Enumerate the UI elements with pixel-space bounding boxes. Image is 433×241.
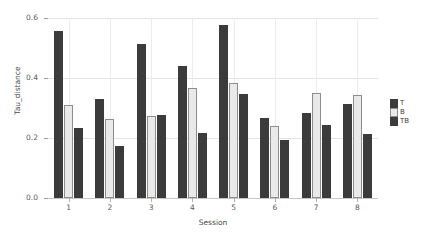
bar-group-session-1: [54, 18, 83, 198]
legend-label-b: B: [400, 108, 405, 117]
bar-b-session-5: [229, 83, 238, 198]
bar-tb-session-6: [280, 140, 289, 198]
bar-t-session-8: [343, 104, 352, 199]
bar-tb-session-4: [198, 133, 207, 198]
x-tick-mark-8: [357, 198, 358, 202]
x-axis-line: [48, 198, 378, 199]
legend-swatch-tb-icon: [390, 117, 398, 126]
bar-tb-session-7: [322, 125, 331, 198]
bar-series-container: [48, 18, 378, 198]
x-tick-label-1: 1: [49, 203, 89, 212]
bar-b-session-4: [188, 88, 197, 198]
bar-b-session-7: [312, 93, 321, 198]
x-tick-mark-2: [110, 198, 111, 202]
x-tick-mark-3: [151, 198, 152, 202]
bar-t-session-3: [137, 44, 146, 198]
x-tick-mark-4: [192, 198, 193, 202]
bar-tb-session-1: [74, 128, 83, 198]
bar-b-session-2: [105, 119, 114, 198]
plot-area: [48, 18, 378, 198]
y-tick-mark-0.4: [44, 78, 48, 79]
bar-group-session-3: [137, 18, 166, 198]
x-tick-mark-5: [234, 198, 235, 202]
bar-t-session-7: [302, 113, 311, 198]
x-tick-label-7: 7: [296, 203, 336, 212]
bar-t-session-1: [54, 31, 63, 198]
bar-t-session-4: [178, 66, 187, 198]
bar-b-session-1: [64, 105, 73, 198]
legend-label-t: T: [400, 99, 404, 108]
bar-tb-session-5: [239, 94, 248, 198]
bar-t-session-6: [260, 118, 269, 198]
bar-t-session-2: [95, 99, 104, 198]
x-tick-mark-6: [275, 198, 276, 202]
y-tick-mark-0.2: [44, 138, 48, 139]
x-tick-label-6: 6: [255, 203, 295, 212]
legend-item-t[interactable]: T: [390, 99, 409, 108]
y-axis-label: Tau_distance: [13, 46, 22, 136]
legend-swatch-t-icon: [390, 99, 398, 108]
x-tick-label-4: 4: [172, 203, 212, 212]
x-axis-label: Session: [48, 218, 378, 227]
bar-t-session-5: [219, 25, 228, 198]
bar-group-session-2: [95, 18, 124, 198]
bar-tb-session-8: [363, 134, 372, 199]
chart-figure: 0.00.20.40.6 12345678 Tau_distance Sessi…: [0, 0, 433, 241]
y-tick-mark-0.6: [44, 18, 48, 19]
bar-tb-session-2: [115, 146, 124, 198]
bar-group-session-5: [219, 18, 248, 198]
legend-swatch-b-icon: [390, 108, 398, 117]
legend-item-tb[interactable]: TB: [390, 117, 409, 126]
bar-b-session-6: [270, 126, 279, 198]
x-tick-label-5: 5: [214, 203, 254, 212]
bar-b-session-3: [147, 116, 156, 198]
y-tick-mark-0.0: [44, 198, 48, 199]
bar-b-session-8: [353, 95, 362, 199]
x-tick-mark-7: [316, 198, 317, 202]
bar-group-session-7: [302, 18, 331, 198]
legend: TBTB: [390, 99, 409, 126]
x-tick-label-8: 8: [337, 203, 377, 212]
y-tick-label-0.0: 0.0: [0, 194, 38, 202]
bar-group-session-8: [343, 18, 372, 198]
y-tick-label-0.6: 0.6: [0, 14, 38, 22]
legend-item-b[interactable]: B: [390, 108, 409, 117]
bar-group-session-4: [178, 18, 207, 198]
x-tick-label-3: 3: [131, 203, 171, 212]
x-tick-mark-1: [69, 198, 70, 202]
bar-group-session-6: [260, 18, 289, 198]
bar-tb-session-3: [157, 115, 166, 198]
legend-label-tb: TB: [400, 117, 409, 126]
x-tick-label-2: 2: [90, 203, 130, 212]
